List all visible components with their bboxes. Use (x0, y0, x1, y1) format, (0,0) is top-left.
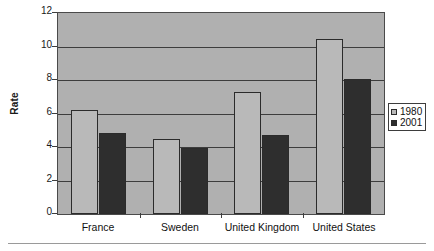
x-label-france: France (57, 221, 139, 239)
bar-sweden-2001 (181, 148, 208, 214)
y-tick-label: 0 (6, 206, 52, 217)
y-tick-label: 2 (6, 173, 52, 184)
legend-item-2001[interactable]: 2001 (391, 117, 422, 128)
y-tick-label: 10 (6, 39, 52, 50)
bar-united-kingdom-1980 (234, 92, 261, 214)
bar-france-2001 (99, 133, 126, 214)
y-tick-label: 6 (6, 106, 52, 117)
bar-france-1980 (71, 110, 98, 214)
legend-label: 1980 (400, 106, 422, 117)
footer-divider (8, 243, 426, 244)
legend-swatch-icon-1980 (391, 109, 397, 115)
y-axis: 024681012 (0, 12, 52, 215)
x-axis-tick (303, 213, 304, 218)
x-label-united-states: United States (303, 221, 385, 239)
x-axis-category-labels: FranceSwedenUnited KingdomUnited States (57, 221, 385, 239)
chart-legend: 19802001 (388, 103, 426, 131)
legend-swatch-icon-2001 (391, 120, 397, 126)
plot-area (57, 12, 385, 215)
bar-united-kingdom-2001 (262, 135, 289, 214)
x-axis-tick (140, 213, 141, 218)
bar-united-states-1980 (316, 39, 343, 214)
legend-label: 2001 (400, 117, 422, 128)
y-tick-label: 4 (6, 139, 52, 150)
bar-united-states-2001 (344, 79, 371, 214)
x-axis-tick (221, 213, 222, 218)
bar-sweden-1980 (153, 139, 180, 214)
y-tick-label: 12 (6, 5, 52, 16)
legend-item-1980[interactable]: 1980 (391, 106, 422, 117)
x-label-united-kingdom: United Kingdom (221, 221, 303, 239)
y-tick-label: 8 (6, 72, 52, 83)
bar-chart-figure: Rate 024681012 FranceSwedenUnited Kingdo… (0, 0, 434, 251)
x-label-sweden: Sweden (139, 221, 221, 239)
